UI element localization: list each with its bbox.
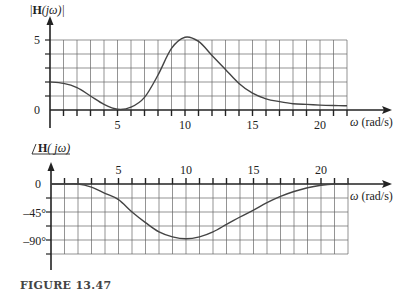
magnitude-chart: |H(jω)| 5 0 5101520 ω (rad/s) <box>30 3 393 132</box>
magnitude-y-tick-0: 0 <box>34 103 40 117</box>
magnitude-x-tick-5: 5 <box>115 118 121 132</box>
figure-caption: FIGURE 13.47 <box>20 279 111 292</box>
phase-x-tick-5: 5 <box>116 163 122 177</box>
phase-chart: H( jω) 0 –45° –90° 5101520 ω (rad/s) <box>22 141 393 270</box>
angle-slash <box>32 144 36 154</box>
phase-y-tick-90: –90° <box>22 234 46 248</box>
magnitude-x-tick-labels: 5101520 <box>115 118 327 132</box>
phase-y-label: H( jω) <box>38 141 70 155</box>
magnitude-x-tick-15: 15 <box>247 118 259 132</box>
magnitude-x-tick-20: 20 <box>314 118 326 132</box>
magnitude-y-tick-5: 5 <box>34 33 40 47</box>
magnitude-x-ticks <box>64 110 348 116</box>
magnitude-y-label: |H(jω)| <box>30 3 65 17</box>
magnitude-x-label: ω (rad/s) <box>350 115 393 129</box>
phase-y-tick-0: 0 <box>35 177 41 191</box>
magnitude-x-tick-10: 10 <box>179 118 191 132</box>
phase-x-tick-10: 10 <box>180 163 192 177</box>
phase-x-tick-15: 15 <box>248 163 260 177</box>
magnitude-y-arrow-icon <box>47 16 54 25</box>
bode-figure: |H(jω)| 5 0 5101520 ω (rad/s) H( jω) 0 –… <box>0 0 406 298</box>
phase-x-tick-20: 20 <box>315 163 327 177</box>
magnitude-grid <box>45 40 347 110</box>
phase-x-ticks <box>65 178 349 184</box>
phase-x-label: ω (rad/s) <box>350 189 393 203</box>
phase-y-tick-45: –45° <box>22 206 46 220</box>
phase-grid <box>46 184 348 254</box>
phase-x-tick-labels: 5101520 <box>116 163 328 177</box>
phase-y-arrow-icon <box>48 162 55 171</box>
